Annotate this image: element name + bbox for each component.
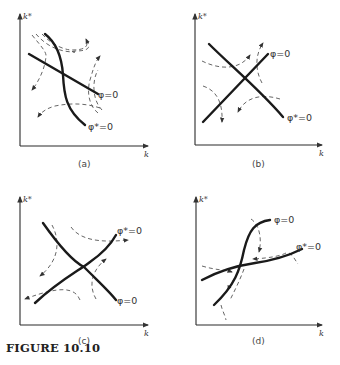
panel-b-axes: k* k [195, 12, 324, 158]
panel-caption: (a) [78, 159, 91, 169]
panel-b: k* k φ=0 φ*=0 (b) [195, 12, 324, 169]
phi-star-zero-curve-d [202, 249, 302, 280]
y-axis-label: k* [199, 195, 208, 204]
curve-label-phi-star: φ*=0 [117, 225, 142, 236]
curve-label-phi: φ=0 [117, 295, 137, 306]
phi-star-zero-curve-c [35, 235, 116, 303]
figure-canvas: k* k φ=0 φ*=0 (a) k* k φ=0 φ*=0 (b [0, 0, 340, 365]
x-axis-label: k [144, 150, 149, 159]
figure-title: FIGURE 10.10 [6, 341, 100, 355]
phi-star-zero-curve-a [45, 34, 85, 125]
y-axis-label: k* [23, 12, 32, 21]
x-axis-label: k [319, 329, 324, 338]
x-axis-label: k [319, 149, 324, 158]
phi-zero-curve-b [203, 54, 268, 122]
curve-label-phi-star: φ*=0 [287, 112, 312, 123]
panel-caption: (b) [252, 159, 265, 169]
curve-label-phi: φ=0 [274, 214, 294, 225]
curve-label-phi-star: φ*=0 [88, 121, 113, 132]
curve-label-phi: φ=0 [270, 48, 290, 59]
curve-label-phi-star: φ*=0 [296, 241, 321, 252]
panel-d-axes: k* k [196, 195, 324, 338]
y-axis-label: k* [23, 195, 32, 204]
panel-a: k* k φ=0 φ*=0 (a) [20, 12, 149, 169]
x-axis-label: k [144, 329, 149, 338]
panel-caption: (d) [252, 336, 265, 346]
curve-label-phi: φ=0 [98, 89, 118, 100]
panel-c: k* k φ*=0 φ=0 (c) [20, 195, 149, 346]
panel-d: k* k φ=0 φ*=0 (d) [196, 195, 324, 346]
y-axis-label: k* [198, 12, 207, 21]
